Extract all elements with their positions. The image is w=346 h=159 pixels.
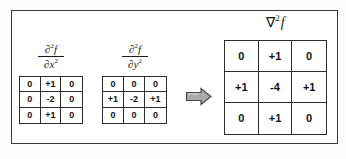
kernel-cell: 0 xyxy=(292,41,326,72)
kernel-cell: 0 xyxy=(124,108,145,123)
kernel-cell: 0 xyxy=(145,77,166,92)
label-d2f-dx2-numerator: ∂2f xyxy=(24,43,78,56)
kernel-grid-d2f-dy2: 0 0 0 +1 -2 +1 0 0 0 xyxy=(102,76,167,124)
kernel-cell: -2 xyxy=(41,92,62,107)
kernel-cell: +1 xyxy=(103,92,124,107)
kernel-cell: 0 xyxy=(20,77,41,92)
kernel-cell: +1 xyxy=(41,77,62,92)
kernel-cell: -2 xyxy=(124,92,145,107)
kernel-cell: 0 xyxy=(20,108,41,123)
kernel-cell: 0 xyxy=(225,41,259,72)
kernel-grid-laplacian: 0 +1 0 +1 -4 +1 0 +1 0 xyxy=(224,40,327,135)
kernel-cell: -4 xyxy=(259,72,293,103)
kernel-cell: +1 xyxy=(292,72,326,103)
kernel-cell: 0 xyxy=(61,92,82,107)
label-d2f-dx2: ∂2f ∂x2 xyxy=(24,43,78,69)
kernel-cell: 0 xyxy=(145,108,166,123)
kernel-cell: 0 xyxy=(61,77,82,92)
kernel-cell: +1 xyxy=(145,92,166,107)
label-laplacian: ∇2f xyxy=(224,14,327,30)
kernel-cell: 0 xyxy=(225,103,259,134)
kernel-cell: +1 xyxy=(41,108,62,123)
kernel-cell: +1 xyxy=(225,72,259,103)
right-block-arrow-icon xyxy=(185,87,213,106)
label-d2f-dy2: ∂2f ∂y2 xyxy=(108,43,162,69)
kernel-cell: 0 xyxy=(61,108,82,123)
laplacian-kernel-figure: ∂2f ∂x2 ∂2f ∂y2 0 +1 0 0 -2 0 0 +1 0 0 0… xyxy=(0,0,346,159)
label-d2f-dy2-numerator: ∂2f xyxy=(108,43,162,56)
kernel-grid-d2f-dx2: 0 +1 0 0 -2 0 0 +1 0 xyxy=(19,76,83,124)
kernel-cell: 0 xyxy=(103,108,124,123)
label-d2f-dx2-denominator: ∂x2 xyxy=(24,57,78,70)
kernel-cell: 0 xyxy=(103,77,124,92)
kernel-cell: 0 xyxy=(124,77,145,92)
label-d2f-dy2-denominator: ∂y2 xyxy=(108,57,162,70)
kernel-cell: +1 xyxy=(259,41,293,72)
kernel-cell: 0 xyxy=(20,92,41,107)
kernel-cell: +1 xyxy=(259,103,293,134)
kernel-cell: 0 xyxy=(292,103,326,134)
